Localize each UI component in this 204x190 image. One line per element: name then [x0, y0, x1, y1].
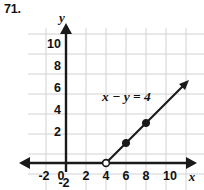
y-tick-2: 2 — [54, 125, 61, 139]
x-tick-4: 4 — [103, 169, 110, 183]
y-tick-10: 10 — [47, 37, 61, 51]
y-axis-label: y — [57, 10, 65, 25]
x-tick-2: 2 — [83, 169, 90, 183]
y-tick-4: 4 — [54, 103, 61, 117]
x-tick-0: 0 — [58, 169, 65, 183]
x-tick-8: 8 — [143, 169, 150, 183]
y-tick-6: 6 — [54, 81, 61, 95]
point-open-4-0 — [103, 160, 110, 167]
x-axis-arrow-left — [19, 157, 30, 169]
x-tick-10: 10 — [163, 169, 177, 183]
point-filled-6-2 — [122, 139, 129, 146]
x-axis-arrow-right — [186, 157, 197, 169]
y-tick-8: 8 — [54, 59, 61, 73]
x-tick-6: 6 — [123, 169, 130, 183]
x-tick-labels: -2 0 2 4 6 8 10 — [38, 169, 177, 183]
coordinate-plane: 10 8 6 4 2 -2 -2 0 2 4 6 8 10 y x — [0, 0, 204, 190]
x-tick-neg2: -2 — [38, 169, 49, 183]
equation-label: x − y = 4 — [101, 89, 151, 104]
point-filled-8-4 — [142, 119, 149, 126]
problem-number: 71. — [4, 3, 21, 16]
x-axis-label: x — [188, 169, 196, 184]
graph-figure: 71. — [0, 0, 204, 190]
